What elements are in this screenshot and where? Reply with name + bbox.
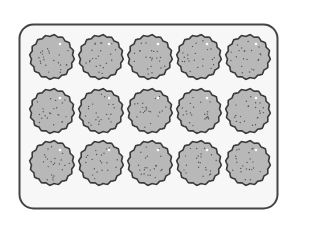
cookie-dot: [90, 125, 91, 126]
cookie-dot: [147, 68, 148, 69]
cookie-dot: [56, 107, 57, 108]
cookie-dot: [153, 51, 154, 52]
cookie-dot: [85, 115, 86, 116]
cookie-dot: [146, 107, 147, 108]
cookie-dot: [143, 173, 144, 174]
cookie-dot: [150, 123, 151, 124]
cookie-dot: [152, 58, 153, 59]
cookie-dot: [234, 117, 235, 118]
cookie-dot: [106, 63, 107, 64]
cookie-dot: [251, 169, 252, 170]
cookie-dot: [251, 50, 252, 51]
cookie-dot: [198, 167, 199, 168]
cookie-dot: [98, 55, 99, 56]
cookie-dot: [192, 125, 193, 126]
cookie-dot: [187, 54, 188, 55]
cookie-dot: [42, 53, 43, 54]
cookie-dot: [161, 169, 162, 170]
cookie-highlight: [108, 97, 111, 100]
cookie-dot: [263, 107, 264, 108]
cookie-dot: [103, 153, 104, 154]
cookie-highlight: [59, 97, 62, 100]
cookie-dot: [259, 110, 260, 111]
cookie: [79, 35, 124, 80]
cookie-dot: [51, 174, 52, 175]
cookie-dot: [259, 113, 260, 114]
cookie-dot: [100, 50, 101, 51]
cookie-dot: [209, 101, 210, 102]
cookie-dot: [162, 110, 163, 111]
cookie-highlight: [157, 97, 160, 100]
cookie-dot: [100, 119, 101, 120]
cookie-dot: [96, 112, 97, 113]
cookie-dot: [182, 61, 183, 62]
cookie-dot: [144, 127, 145, 128]
cookie-dot: [145, 42, 146, 43]
cookie-dot: [150, 175, 151, 176]
cookie-dot: [235, 104, 236, 105]
cookie-dot: [159, 96, 160, 97]
cookie-dot: [200, 102, 201, 103]
cookie-dot: [52, 179, 53, 180]
cookie-dot: [92, 159, 93, 160]
cookie-dot: [216, 160, 217, 161]
cookie-dot: [43, 111, 44, 112]
cookie-dot: [196, 158, 197, 159]
cookie: [177, 141, 222, 186]
cookie-dot: [85, 162, 86, 163]
cookie-dot: [246, 101, 247, 102]
cookie-dot: [54, 163, 55, 164]
cookie-dot: [186, 113, 187, 114]
cookie-dot: [189, 122, 190, 123]
cookie-dot: [211, 154, 212, 155]
cookie-dot: [157, 51, 158, 52]
cookie-dot: [230, 60, 231, 61]
cookie-dot: [205, 167, 206, 168]
cookie-dot: [139, 50, 140, 51]
cookie-dot: [241, 47, 242, 48]
cookie-dot: [53, 175, 54, 176]
cookie-dot: [134, 103, 135, 104]
cookie-dot: [193, 107, 194, 108]
cookie-dot: [45, 115, 46, 116]
cookie-dot: [205, 169, 206, 170]
cookie-dot: [138, 165, 139, 166]
cookie-dot: [257, 117, 258, 118]
cookie: [177, 89, 222, 134]
cookie-dot: [51, 146, 52, 147]
cookie-highlight: [108, 149, 111, 152]
cookie-dot: [240, 171, 241, 172]
cookie-dot: [204, 148, 205, 149]
cookie-dot: [101, 94, 102, 95]
cookie-dot: [107, 170, 108, 171]
cookie-dot: [61, 159, 62, 160]
cookie-dot: [65, 116, 66, 117]
cookie-dot: [250, 96, 251, 97]
cookie-dot: [151, 50, 152, 51]
cookie-dot: [236, 162, 237, 163]
cookie-dot: [195, 43, 196, 44]
cookie-dot: [188, 60, 189, 61]
cookie-dot: [43, 59, 44, 60]
cookie-dot: [95, 150, 96, 151]
cookie-dot: [208, 118, 209, 119]
cookie-dot: [191, 114, 192, 115]
cookie-dot: [85, 62, 86, 63]
cookie-dot: [111, 43, 112, 44]
cookie-dot: [40, 61, 41, 62]
cookie-dot: [258, 59, 259, 60]
cookie-dot: [235, 115, 236, 116]
cookie-dot: [101, 162, 102, 163]
cookie-dot: [242, 72, 243, 73]
cookie-dot: [251, 148, 252, 149]
cookie-dot: [62, 153, 63, 154]
cookie-dot: [253, 167, 254, 168]
cookie-dot: [42, 108, 43, 109]
cookie-dot: [102, 73, 103, 74]
cookie-dot: [110, 54, 111, 55]
cookie-dot: [144, 111, 145, 112]
cookie-dot: [235, 156, 236, 157]
cookie-dot: [60, 69, 61, 70]
cookie-dot: [60, 72, 61, 73]
cookie-dot: [236, 158, 237, 159]
